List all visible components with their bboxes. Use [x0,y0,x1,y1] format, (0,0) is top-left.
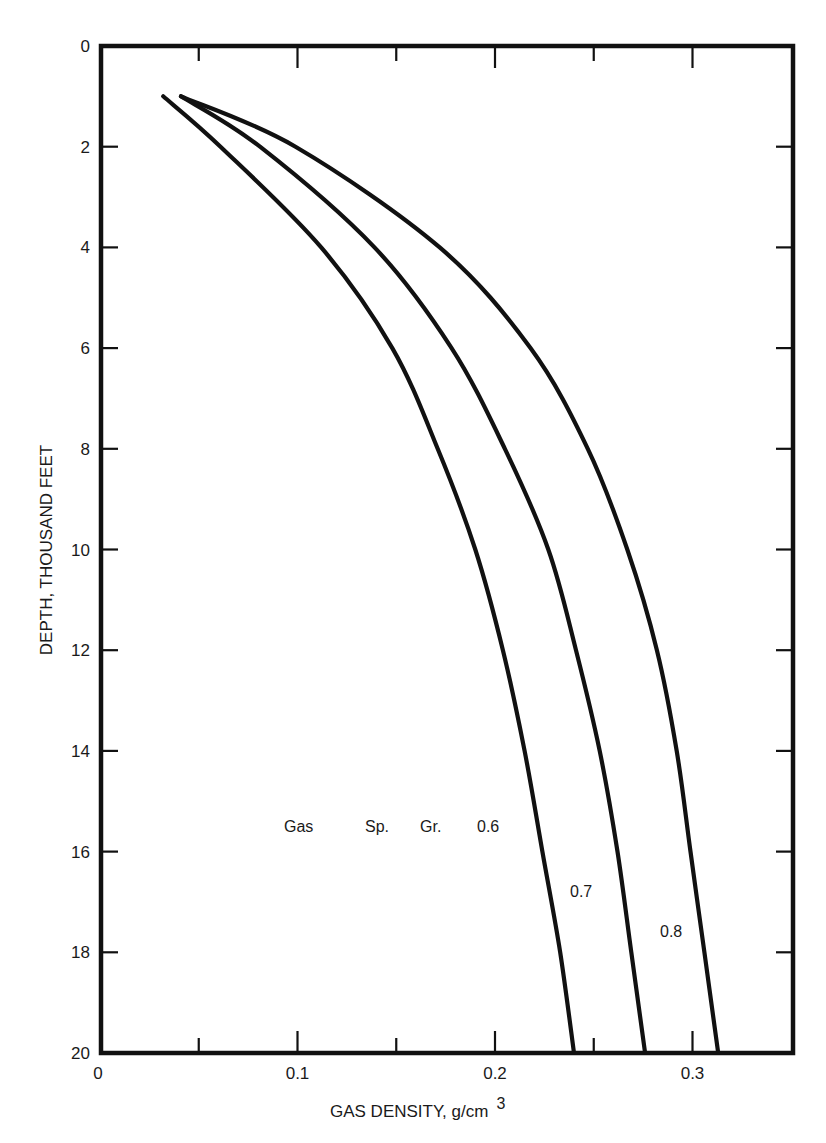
x-tick-label: 0.3 [681,1064,705,1083]
x-axis-tick-labels: 00.10.20.3 [93,1064,704,1083]
curve-sp-gr-0-8 [181,96,718,1053]
y-axis-title: DEPTH, THOUSAND FEET [37,445,56,655]
x-axis-title-superscript: 3 [496,1095,505,1112]
curve-label-0-7: 0.7 [570,883,592,900]
y-tick-label: 8 [81,440,90,459]
y-tick-label: 6 [81,339,90,358]
curve-label-0-6: 0.6 [477,818,499,835]
x-tick-label: 0.1 [286,1064,310,1083]
axis-ticks [101,46,793,1053]
x-tick-label: 0 [93,1064,102,1083]
y-axis-tick-labels: 02468101214161820 [71,37,90,1063]
curve-sp-gr-0-7 [181,96,645,1053]
annotation-gr: Gr. [420,818,441,835]
y-tick-label: 20 [71,1044,90,1063]
y-tick-label: 16 [71,843,90,862]
y-tick-label: 10 [71,541,90,560]
annotation-gas: Gas [284,818,313,835]
y-tick-label: 14 [71,742,90,761]
x-tick-label: 0.2 [483,1064,507,1083]
y-tick-label: 0 [81,37,90,56]
gas-density-chart: 02468101214161820 00.10.20.3 DEPTH, THOU… [0,0,826,1143]
y-tick-label: 18 [71,943,90,962]
y-tick-label: 12 [71,641,90,660]
curves [163,96,718,1053]
plot-frame [101,46,793,1053]
y-tick-label: 2 [81,138,90,157]
curve-label-0-8: 0.8 [660,923,682,940]
y-tick-label: 4 [81,238,90,257]
x-axis-title-text: GAS DENSITY, g/cm [330,1102,488,1121]
x-axis-title: GAS DENSITY, g/cm3 [330,1095,505,1121]
annotation-sp: Sp. [365,818,389,835]
